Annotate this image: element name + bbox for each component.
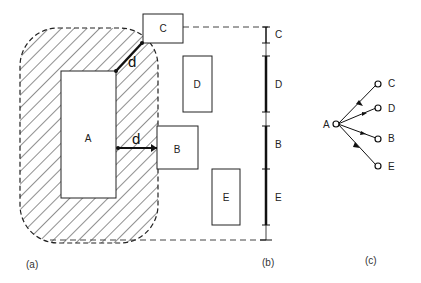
- projection-scale: [260, 27, 272, 240]
- node-b: [375, 136, 381, 142]
- scale-label-b: B: [275, 139, 282, 150]
- directed-graph: [333, 81, 381, 169]
- box-c-label: C: [159, 23, 166, 34]
- arrow-ae-head: [353, 142, 360, 148]
- node-b-label: B: [388, 133, 395, 144]
- caption-c: (c): [365, 255, 377, 266]
- node-c-label: C: [388, 78, 395, 89]
- box-d-label: D: [193, 79, 200, 90]
- node-a-label: A: [323, 119, 330, 130]
- box-b: B: [157, 126, 198, 169]
- figure-canvas: A C D B E d d: [0, 0, 421, 283]
- distance-label-horizontal: d: [132, 130, 140, 147]
- box-d: D: [183, 56, 212, 112]
- node-c: [375, 81, 381, 87]
- box-a-label: A: [85, 133, 92, 144]
- box-b-label: B: [174, 144, 181, 155]
- scale-label-e: E: [275, 192, 282, 203]
- node-e: [375, 163, 381, 169]
- box-c: C: [143, 14, 183, 43]
- caption-b: (b): [262, 257, 274, 268]
- box-a: A: [61, 71, 116, 198]
- node-a: [333, 121, 339, 127]
- box-e-label: E: [223, 192, 230, 203]
- scale-label-d: D: [275, 79, 282, 90]
- node-d-label: D: [388, 103, 395, 114]
- node-d: [375, 105, 381, 111]
- box-e: E: [212, 169, 240, 225]
- scale-label-c: C: [275, 29, 282, 40]
- distance-label-diagonal: d: [128, 53, 136, 70]
- caption-a: (a): [26, 259, 38, 270]
- node-e-label: E: [388, 161, 395, 172]
